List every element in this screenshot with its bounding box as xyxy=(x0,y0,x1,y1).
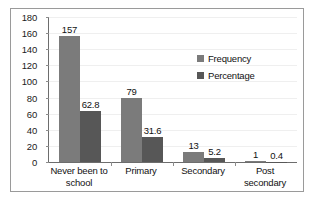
bars-row xyxy=(49,17,111,162)
legend-label: Percentage xyxy=(208,70,255,81)
y-axis-tick-labels: 180160140120100806040200 xyxy=(11,17,37,162)
x-axis-category-label: Never been toschool xyxy=(48,165,110,188)
y-axis-tick-label: 120 xyxy=(22,60,37,71)
x-axis-category-line: Primary xyxy=(110,165,172,177)
x-axis-category-line: Post secondary xyxy=(234,165,296,188)
bar-groups: 15762.87931.6135.210.4 xyxy=(49,17,297,162)
y-axis-tick-label: 60 xyxy=(27,108,37,119)
legend-swatch-icon xyxy=(197,72,204,79)
bar-group: 10.4 xyxy=(235,17,297,162)
y-axis-tick-label: 80 xyxy=(27,92,37,103)
bar-percentage[interactable] xyxy=(80,111,101,162)
y-axis-tick-label: 160 xyxy=(22,28,37,39)
x-axis-category-label: Secondary xyxy=(172,165,234,188)
y-axis-tick-label: 40 xyxy=(27,124,37,135)
x-axis-category-label: Post secondary xyxy=(234,165,296,188)
y-axis-tick-label: 20 xyxy=(27,140,37,151)
x-axis-category-line: Secondary xyxy=(172,165,234,177)
y-axis-tick-label: 180 xyxy=(22,12,37,23)
legend-item[interactable]: Percentage xyxy=(197,70,255,81)
y-axis-tick-label: 100 xyxy=(22,76,37,87)
legend: FrequencyPercentage xyxy=(197,53,255,87)
x-axis-category-line: Never been to xyxy=(48,165,110,177)
y-axis-tick-mark xyxy=(46,162,49,163)
bar-frequency[interactable] xyxy=(121,98,142,162)
x-axis-category-labels: Never been toschoolPrimarySecondaryPost … xyxy=(48,165,296,188)
bar-frequency[interactable] xyxy=(183,152,204,162)
legend-swatch-icon xyxy=(197,55,204,62)
bar-group: 135.2 xyxy=(173,17,235,162)
y-axis-tick-label: 140 xyxy=(22,44,37,55)
bar-percentage[interactable] xyxy=(204,158,225,162)
bars-row xyxy=(173,17,235,162)
bar-group: 7931.6 xyxy=(111,17,173,162)
x-axis-category-line: school xyxy=(48,177,110,189)
plot-area: 15762.87931.6135.210.4 xyxy=(48,17,297,163)
legend-label: Frequency xyxy=(208,53,251,64)
chart-frame: 180160140120100806040200 15762.87931.613… xyxy=(10,8,304,192)
y-axis-tick-label: 0 xyxy=(32,157,37,168)
bars-row xyxy=(235,17,297,162)
bar-frequency[interactable] xyxy=(59,36,80,162)
x-axis-category-label: Primary xyxy=(110,165,172,188)
bars-row xyxy=(111,17,173,162)
bar-frequency[interactable] xyxy=(245,161,266,162)
bar-percentage[interactable] xyxy=(142,137,163,162)
bar-group: 15762.8 xyxy=(49,17,111,162)
legend-item[interactable]: Frequency xyxy=(197,53,255,64)
